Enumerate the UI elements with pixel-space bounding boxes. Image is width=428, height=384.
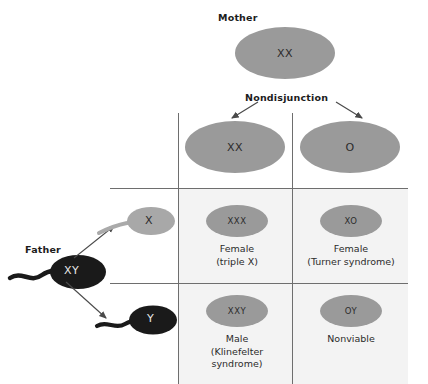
paternal-gamete-y-label: Y <box>147 312 154 325</box>
offspring-xxy: XXY <box>206 295 268 327</box>
offspring-xxy-genotype: XXY <box>228 306 246 316</box>
mother-label: Mother <box>218 12 258 23</box>
offspring-xo-genotype: XO <box>345 216 358 226</box>
maternal-gamete-xx: XX <box>185 121 285 173</box>
paternal-gamete-y: Y <box>95 300 185 346</box>
offspring-oy: OY <box>320 295 382 327</box>
offspring-oy-genotype: OY <box>345 306 357 316</box>
offspring-xxx: XXX <box>206 205 268 237</box>
nondisjunction-punnett-diagram: Mother XX Nondisjunction XX O Father XY <box>0 0 428 384</box>
offspring-xxy-outcome: Male (Klinefelter syndrome) <box>185 333 289 371</box>
offspring-xo-outcome: Female (Turner syndrome) <box>296 243 406 268</box>
maternal-gamete-o: O <box>300 121 400 173</box>
nondisjunction-arrow-right <box>330 100 390 124</box>
offspring-xxx-genotype: XXX <box>228 216 247 226</box>
paternal-gamete-x-label: X <box>145 214 153 227</box>
offspring-xxx-outcome: Female (triple X) <box>185 243 289 268</box>
grid-hline-top <box>110 188 408 189</box>
grid-vline-middle <box>292 113 293 384</box>
maternal-gamete-o-label: O <box>345 141 354 154</box>
paternal-gamete-x: X <box>95 203 185 247</box>
mother-genotype-label: XX <box>277 47 293 60</box>
mother-cell: XX <box>235 27 335 79</box>
offspring-oy-outcome: Nonviable <box>296 333 406 346</box>
father-genotype-label: XY <box>64 264 79 277</box>
offspring-xo: XO <box>320 205 382 237</box>
paternal-gamete-x-tail-icon <box>95 203 185 247</box>
maternal-gamete-xx-label: XX <box>227 141 243 154</box>
paternal-gamete-y-tail-icon <box>95 300 185 346</box>
grid-hline-middle <box>110 283 408 284</box>
